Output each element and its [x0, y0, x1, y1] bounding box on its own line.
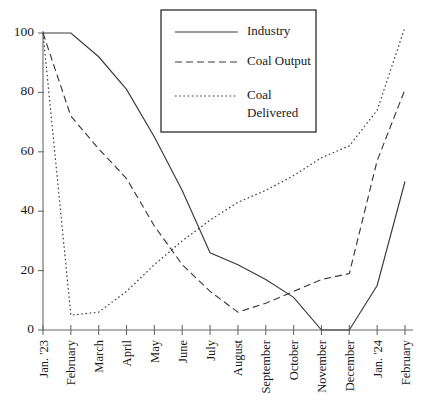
- x-tick-label: February: [399, 339, 413, 385]
- y-tick-label: 40: [21, 202, 35, 217]
- x-tick-label: December: [343, 339, 357, 391]
- x-tick-label: April: [120, 339, 134, 366]
- y-tick-label: 60: [21, 143, 35, 158]
- y-tick-label: 20: [21, 262, 35, 277]
- y-tick-label: 80: [21, 83, 35, 98]
- chart-canvas: 020406080100 Jan. '23FebruaryMarchAprilM…: [0, 0, 421, 410]
- x-tick-label: August: [231, 339, 245, 376]
- x-tick-label: March: [92, 339, 106, 372]
- x-tick-label: November: [315, 339, 329, 393]
- x-tick-label: February: [64, 339, 78, 385]
- x-tick-labels: Jan. '23FebruaryMarchAprilMayJuneJulyAug…: [37, 339, 413, 393]
- x-tick-label: October: [287, 339, 301, 380]
- x-tick-label: Jan. '24: [371, 339, 385, 377]
- x-tick-label: June: [176, 340, 190, 363]
- x-tick-label: May: [148, 339, 162, 363]
- y-tick-label: 100: [14, 24, 35, 39]
- x-tick-label: July: [204, 339, 218, 361]
- legend-label-coal-output: Coal Output: [247, 53, 311, 68]
- chart-legend: IndustryCoal OutputCoalDelivered: [161, 10, 316, 132]
- x-tick-label: September: [259, 339, 273, 393]
- legend-label-industry: Industry: [247, 23, 291, 38]
- y-axis-group: 020406080100: [14, 24, 44, 336]
- y-tick-labels: 020406080100: [14, 24, 35, 336]
- legend-label-coal: Coal: [247, 87, 272, 102]
- y-tick-label: 0: [27, 321, 34, 336]
- line-chart: 020406080100 Jan. '23FebruaryMarchAprilM…: [0, 0, 421, 410]
- x-tick-label: Jan. '23: [37, 340, 51, 378]
- legend-label-coal-line2: Delivered: [247, 105, 299, 120]
- x-axis-group: Jan. '23FebruaryMarchAprilMayJuneJulyAug…: [37, 325, 414, 393]
